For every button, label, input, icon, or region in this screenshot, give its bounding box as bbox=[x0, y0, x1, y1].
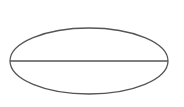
diagram-canvas bbox=[0, 0, 184, 107]
